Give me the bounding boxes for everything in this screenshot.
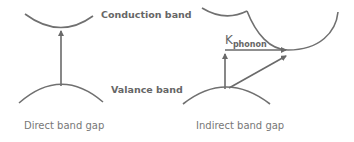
indirect-conduction-band-small-arc [202, 8, 247, 16]
indirect-diagonal-arrow [229, 56, 286, 88]
indirect-valence-band-curve [183, 87, 270, 104]
k-subscript: phonon [233, 40, 267, 49]
conduction-band-label: Conduction band [101, 9, 192, 20]
valance-band-label: Valance band [111, 84, 183, 95]
direct-conduction-band-curve [25, 14, 93, 28]
direct-valence-band-curve [19, 84, 103, 103]
k-symbol: K [225, 33, 233, 47]
indirect-band-gap-caption: Indirect band gap [196, 120, 284, 131]
k-phonon-label: Kphonon [225, 33, 267, 49]
direct-band-gap-caption: Direct band gap [24, 120, 104, 131]
